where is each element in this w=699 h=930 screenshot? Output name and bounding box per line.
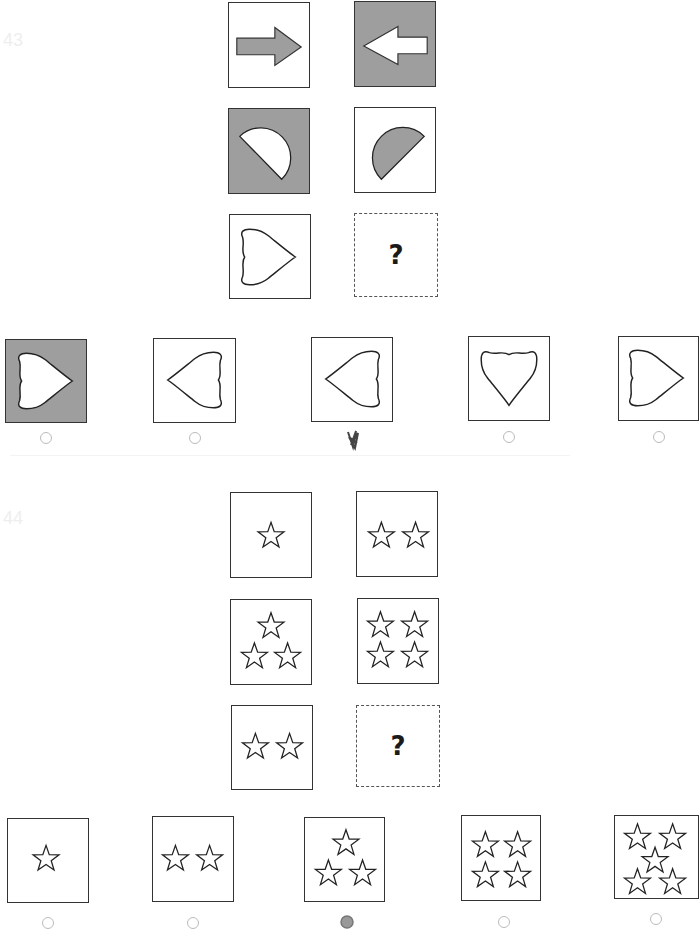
- divider: [10, 455, 570, 456]
- star-icon: [615, 816, 698, 898]
- heart-icon: [6, 340, 86, 422]
- option-c-stars-3[interactable]: [304, 817, 385, 902]
- star-icon: [153, 817, 233, 901]
- matrix-tile-stars-1: [230, 492, 312, 578]
- heart-icon: [312, 338, 392, 421]
- option-a-stars-1[interactable]: [7, 818, 89, 903]
- matrix-tile-heart: [229, 214, 311, 299]
- question-mark: ?: [357, 706, 439, 786]
- radio-option-a[interactable]: [42, 917, 54, 929]
- matrix-tile-missing: ?: [354, 213, 438, 297]
- half-circle-icon: [355, 108, 435, 192]
- matrix-tile-half-circle-gray: [354, 107, 436, 193]
- option-b-stars-2[interactable]: [152, 816, 234, 902]
- heart-icon: [619, 337, 698, 420]
- radio-option-d[interactable]: [498, 916, 510, 928]
- matrix-tile-half-circle-white: [228, 108, 310, 194]
- question-number: 43: [3, 30, 23, 51]
- star-icon: [305, 818, 384, 901]
- heart-icon: [469, 337, 549, 420]
- star-icon: [231, 600, 311, 684]
- star-icon: [231, 493, 311, 577]
- matrix-tile-stars-2: [356, 491, 438, 577]
- option-d-heart-up[interactable]: [468, 336, 550, 421]
- star-icon: [462, 816, 540, 900]
- radio-option-b[interactable]: [189, 432, 201, 444]
- pen-mark-selected[interactable]: [339, 912, 355, 930]
- heart-icon: [154, 339, 235, 422]
- option-c-heart-left[interactable]: [311, 337, 393, 422]
- option-b-heart-left[interactable]: [153, 338, 236, 423]
- heart-icon: [230, 215, 310, 298]
- half-circle-icon: [229, 109, 309, 193]
- question-number: 44: [3, 508, 23, 529]
- radio-option-a[interactable]: [40, 432, 52, 444]
- arrow-right-icon: [229, 3, 309, 87]
- star-icon: [232, 706, 312, 789]
- matrix-tile-arrow-left: [354, 1, 436, 87]
- matrix-tile-stars-4: [357, 598, 439, 684]
- option-e-heart-right[interactable]: [618, 336, 699, 421]
- star-icon: [357, 492, 437, 576]
- radio-option-e[interactable]: [653, 431, 665, 443]
- radio-option-b[interactable]: [187, 917, 199, 929]
- matrix-tile-missing: ?: [356, 705, 440, 787]
- arrow-left-icon: [355, 2, 435, 86]
- matrix-tile-stars-3: [230, 599, 312, 685]
- question-mark: ?: [355, 214, 437, 296]
- option-d-stars-4[interactable]: [461, 815, 541, 901]
- star-icon: [8, 819, 88, 902]
- option-a-heart-gray[interactable]: [5, 339, 87, 423]
- matrix-tile-stars-2b: [231, 705, 313, 790]
- radio-option-e[interactable]: [650, 913, 662, 925]
- radio-option-d[interactable]: [503, 431, 515, 443]
- matrix-tile-arrow-right: [228, 2, 310, 88]
- star-icon: [358, 599, 438, 683]
- pen-mark-selected[interactable]: [345, 429, 361, 451]
- option-e-stars-5[interactable]: [614, 815, 699, 899]
